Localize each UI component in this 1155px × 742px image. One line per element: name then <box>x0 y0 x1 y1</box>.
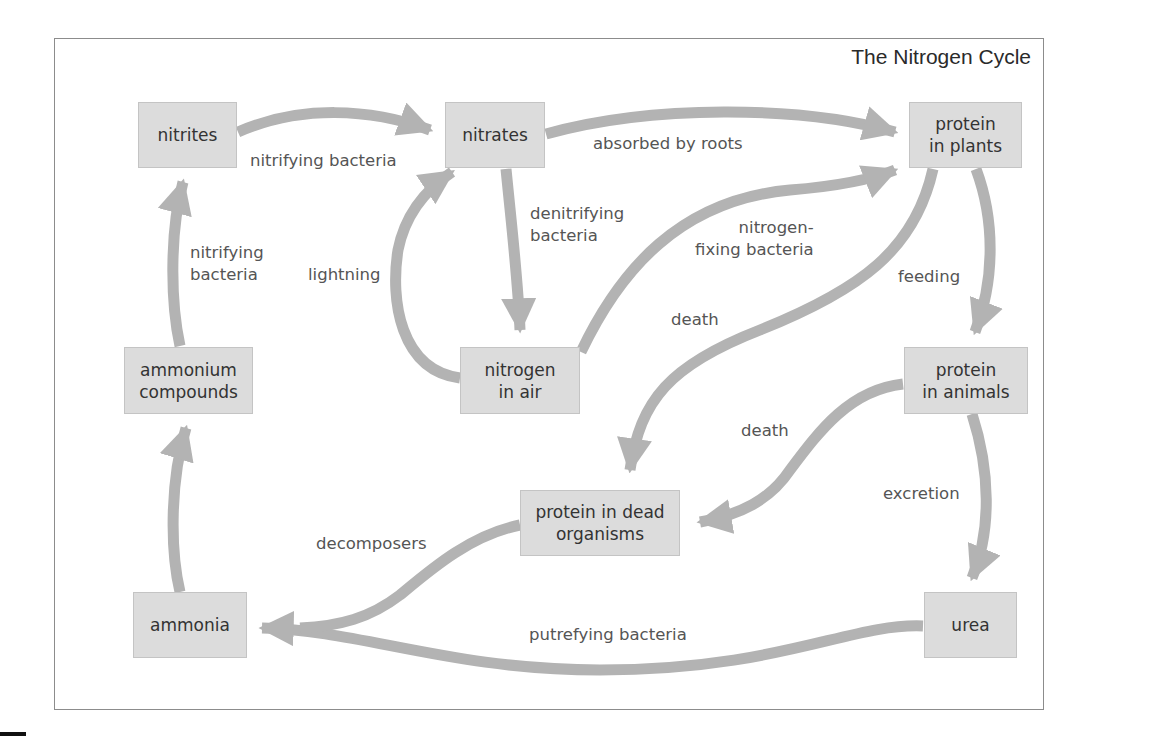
arrow-plants-to-animals <box>975 169 990 332</box>
label-putrefying-bacteria: putrefying bacteria <box>529 624 687 646</box>
node-urea: urea <box>924 592 1017 658</box>
label-denitrifying-bacteria: denitrifying bacteria <box>530 203 624 247</box>
node-protein-in-plants: protein in plants <box>909 102 1022 168</box>
arrow-nitrates-to-air <box>506 169 520 330</box>
arrow-animals-to-urea <box>972 414 986 578</box>
arrow-air-to-plants <box>581 170 895 352</box>
node-nitrates: nitrates <box>445 102 545 168</box>
label-death-plants: death <box>671 309 719 331</box>
arrow-nitrites-to-nitrates <box>238 113 430 132</box>
label-absorbed-by-roots: absorbed by roots <box>593 133 743 155</box>
node-protein-in-animals: protein in animals <box>904 347 1028 414</box>
label-nitrifying-bacteria-left: nitrifying bacteria <box>190 242 264 286</box>
arrow-ammonium-to-nitrites <box>173 182 183 346</box>
corner-mark <box>0 732 26 736</box>
label-feeding: feeding <box>898 266 960 288</box>
label-death-animals: death <box>741 420 789 442</box>
label-nitrifying-bacteria-top: nitrifying bacteria <box>250 150 397 172</box>
node-ammonium-compounds: ammonium compounds <box>124 347 253 414</box>
node-ammonia: ammonia <box>133 592 247 658</box>
arrow-animals-to-dead <box>700 384 903 522</box>
label-excretion: excretion <box>883 483 960 505</box>
label-lightning: lightning <box>308 264 381 286</box>
arrow-ammonia-to-ammonium <box>173 428 186 592</box>
label-nitrogen-fixing-bacteria: nitrogen- fixing bacteria <box>695 217 814 261</box>
arrow-nitrates-to-plants <box>546 112 895 134</box>
node-protein-in-dead-organisms: protein in dead organisms <box>520 490 680 556</box>
node-nitrites: nitrites <box>138 102 237 168</box>
label-decomposers: decomposers <box>316 533 427 555</box>
arrow-air-to-nitrates <box>396 172 460 378</box>
node-nitrogen-in-air: nitrogen in air <box>460 347 580 414</box>
